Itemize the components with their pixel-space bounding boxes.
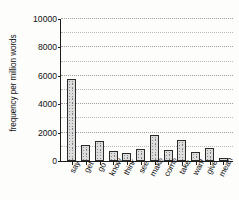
bar-slot	[134, 19, 148, 161]
y-tick-label: 4000	[38, 99, 57, 109]
bar-slot	[216, 19, 230, 161]
x-label-slot: see	[133, 163, 147, 200]
bar-chart: frequency per million words 020004000600…	[0, 0, 239, 200]
y-axis-title: frequency per million words	[9, 8, 23, 158]
x-label-slot: give	[202, 163, 216, 200]
bar-slot	[79, 19, 93, 161]
plot-area: 0200040006000800010000	[60, 19, 233, 162]
bar-slot	[189, 19, 203, 161]
bar-slot	[65, 19, 79, 161]
x-label-slot: make	[147, 163, 161, 200]
y-tick-label: 10000	[33, 14, 57, 24]
bar-slot	[106, 19, 120, 161]
x-axis-labels: saygetgoknowthinkseemakecometakewantgive…	[60, 163, 232, 200]
y-tick-label: 6000	[38, 71, 57, 81]
bar-slot	[161, 19, 175, 161]
x-label-slot: mean	[215, 163, 229, 200]
x-label-slot: go	[92, 163, 106, 200]
bar-slot	[120, 19, 134, 161]
bar-slot	[93, 19, 107, 161]
bar[interactable]	[95, 141, 104, 161]
x-label-slot: know	[105, 163, 119, 200]
x-label-slot: come	[160, 163, 174, 200]
x-label-slot: say	[64, 163, 78, 200]
y-tick-label: 2000	[38, 128, 57, 138]
bar[interactable]	[67, 79, 76, 161]
y-tick-mark	[58, 161, 61, 162]
bar-series	[61, 19, 233, 161]
x-label-slot: take	[174, 163, 188, 200]
x-label-slot: want	[188, 163, 202, 200]
y-tick-label: 8000	[38, 42, 57, 52]
x-label-slot: think	[119, 163, 133, 200]
x-label-slot: get	[78, 163, 92, 200]
bar-slot	[203, 19, 217, 161]
bar[interactable]	[81, 145, 90, 161]
bar-slot	[148, 19, 162, 161]
bar-slot	[175, 19, 189, 161]
y-tick-label: 0	[52, 156, 57, 166]
